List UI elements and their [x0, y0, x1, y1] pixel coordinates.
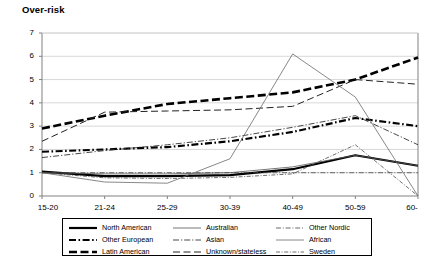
legend-swatch-icon: [276, 223, 304, 233]
legend-swatch-icon: [276, 247, 304, 257]
legend-item-label: Unknown/stateless: [206, 248, 266, 256]
legend-item-australian[interactable]: Australian: [173, 222, 266, 233]
legend-swatch-icon: [173, 235, 201, 245]
legend-item-asian[interactable]: Asian: [173, 234, 266, 245]
legend-item-label: Asian: [206, 236, 224, 244]
legend-column-1: North AmericanOther EuropeanLatin Americ…: [69, 221, 153, 255]
y-tick-label-5: 5: [8, 76, 34, 84]
y-tick-label-6: 6: [8, 52, 34, 60]
legend-column-3: Other NordicAfricanSweden: [276, 221, 350, 255]
y-tick-label-3: 3: [8, 122, 34, 130]
x-tick-label-2: 25-29: [144, 204, 190, 212]
y-tick-label-4: 4: [8, 99, 34, 107]
series-line-sweden: [42, 145, 418, 196]
legend-item-sweden[interactable]: Sweden: [276, 246, 350, 257]
legend-swatch-icon: [173, 223, 201, 233]
series-line-unknown-stateless: [42, 80, 418, 142]
legend-item-african[interactable]: African: [276, 234, 350, 245]
chart-container: Over-risk 01234567 15-2021-2425-2930-394…: [0, 0, 427, 265]
x-tick-label-4: 40-49: [270, 204, 316, 212]
legend-item-label: Other European: [102, 236, 153, 244]
x-tick-label-0: 15-20: [25, 204, 71, 212]
legend-item-label: North American: [102, 224, 152, 232]
legend-item-unknown-stateless[interactable]: Unknown/stateless: [173, 246, 266, 257]
legend-column-2: AustralianAsianUnknown/stateless: [173, 221, 266, 255]
legend-item-north-american[interactable]: North American: [69, 222, 153, 233]
chart-legend: North AmericanOther EuropeanLatin Americ…: [62, 218, 372, 256]
x-tick-label-6: 60-: [389, 204, 427, 212]
legend-swatch-icon: [276, 235, 304, 245]
y-tick-label-0: 0: [8, 192, 34, 200]
y-tick-label-1: 1: [8, 169, 34, 177]
series-line-latin-american: [42, 57, 418, 128]
x-tick-label-3: 30-39: [207, 204, 253, 212]
y-tick-label-7: 7: [8, 29, 34, 37]
legend-item-label: African: [309, 236, 331, 244]
series-line-asian: [42, 116, 418, 158]
legend-item-other-nordic[interactable]: Other Nordic: [276, 222, 350, 233]
legend-item-label: Australian: [206, 224, 238, 232]
series-line-other-european: [42, 118, 418, 152]
legend-item-latin-american[interactable]: Latin American: [69, 246, 153, 257]
legend-item-label: Sweden: [309, 248, 335, 256]
legend-item-label: Other Nordic: [309, 224, 350, 232]
legend-swatch-icon: [173, 247, 201, 257]
x-tick-label-5: 50-59: [332, 204, 378, 212]
legend-item-label: Latin American: [102, 248, 150, 256]
y-tick-label-2: 2: [8, 145, 34, 153]
legend-swatch-icon: [69, 235, 97, 245]
legend-swatch-icon: [69, 223, 97, 233]
legend-item-other-european[interactable]: Other European: [69, 234, 153, 245]
legend-swatch-icon: [69, 247, 97, 257]
x-tick-label-1: 21-24: [82, 204, 128, 212]
